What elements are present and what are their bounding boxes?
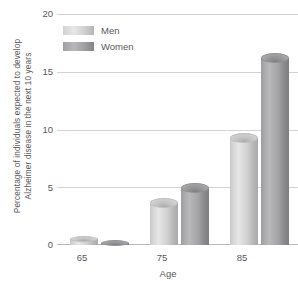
- bar-body: [230, 138, 258, 245]
- x-axis-title-wrap: Age: [0, 268, 298, 279]
- bar-top-ellipse: [230, 133, 258, 143]
- legend-item-women: Women: [63, 41, 134, 52]
- y-tick-0: 0: [29, 239, 53, 250]
- x-tick-85: 85: [222, 252, 262, 263]
- bar-top-ellipse: [101, 240, 129, 246]
- bar-top-ellipse: [70, 236, 98, 242]
- bar-body: [150, 203, 178, 245]
- bar-body: [261, 58, 289, 245]
- y-tick-10: 10: [29, 124, 53, 135]
- legend-label-women: Women: [101, 41, 134, 52]
- bar-top-ellipse: [150, 198, 178, 208]
- bar-men-75: [150, 198, 178, 245]
- x-axis-title: Age: [160, 268, 177, 279]
- gridline-20: [57, 14, 298, 15]
- x-tick-75: 75: [142, 252, 182, 263]
- bar-men-65: [70, 236, 98, 245]
- legend-item-men: Men: [63, 25, 134, 36]
- bar-body: [181, 188, 209, 245]
- legend-swatch-men-icon: [63, 26, 94, 35]
- bar-women-65: [101, 240, 129, 245]
- y-axis-title-line1: Percentage of individuals expected to de…: [12, 39, 24, 213]
- bar-women-75: [181, 183, 209, 245]
- legend-swatch-women-icon: [63, 42, 94, 51]
- y-tick-20: 20: [29, 8, 53, 19]
- legend-label-men: Men: [101, 25, 119, 36]
- bar-women-85: [261, 53, 289, 245]
- bar-men-85: [230, 133, 258, 245]
- bar-top-ellipse: [181, 183, 209, 193]
- legend: Men Women: [63, 25, 134, 52]
- y-tick-5: 5: [29, 182, 53, 193]
- x-tick-65: 65: [62, 252, 102, 263]
- chart-container: Percentage of individuals expected to de…: [0, 0, 298, 281]
- y-tick-15: 15: [29, 66, 53, 77]
